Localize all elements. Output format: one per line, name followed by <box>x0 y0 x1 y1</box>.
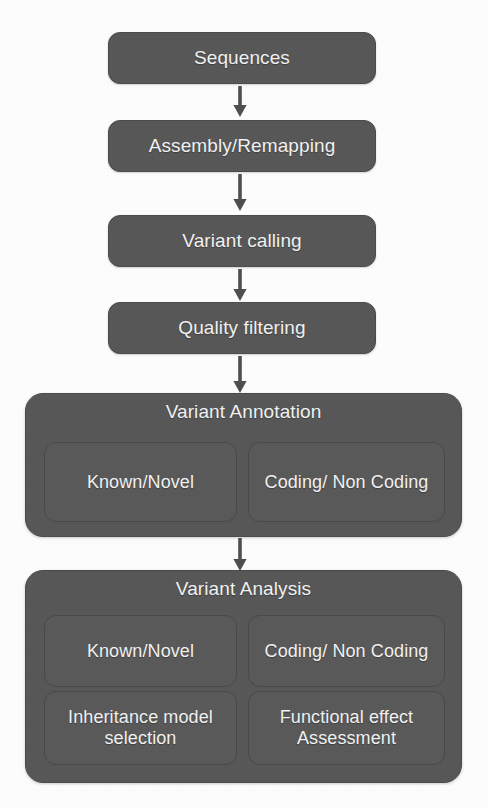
subnode-annotation-coding-noncoding[interactable]: Coding/ Non Coding <box>248 442 445 522</box>
arrow-down-icon-5 <box>233 538 247 572</box>
subnode-analysis-inheritance-model-label: Inheritance model selection <box>49 707 232 748</box>
node-assembly-remapping[interactable]: Assembly/Remapping <box>108 120 376 172</box>
subnode-analysis-known-novel-label: Known/Novel <box>87 641 194 662</box>
subnode-analysis-known-novel[interactable]: Known/Novel <box>44 615 237 687</box>
flowchart-canvas: Sequences Assembly/Remapping Variant cal… <box>0 0 488 808</box>
subnode-analysis-inheritance-model[interactable]: Inheritance model selection <box>44 691 237 765</box>
group-variant-annotation[interactable]: Variant Annotation Known/Novel Coding/ N… <box>25 393 462 537</box>
node-assembly-remapping-label: Assembly/Remapping <box>149 135 336 156</box>
subnode-analysis-coding-noncoding[interactable]: Coding/ Non Coding <box>248 615 445 687</box>
node-quality-filtering[interactable]: Quality filtering <box>108 302 376 354</box>
subnode-analysis-functional-effect-label: Functional effect Assessment <box>253 707 440 748</box>
arrow-down-icon-2 <box>233 174 247 212</box>
node-sequences[interactable]: Sequences <box>108 32 376 84</box>
node-variant-calling-label: Variant calling <box>182 230 301 251</box>
group-variant-analysis-title: Variant Analysis <box>26 578 461 600</box>
group-variant-annotation-title: Variant Annotation <box>26 401 461 423</box>
arrow-down-icon-3 <box>233 269 247 302</box>
group-variant-analysis[interactable]: Variant Analysis Known/Novel Coding/ Non… <box>25 570 462 783</box>
subnode-analysis-coding-noncoding-label: Coding/ Non Coding <box>265 641 429 662</box>
node-sequences-label: Sequences <box>194 47 290 68</box>
node-variant-calling[interactable]: Variant calling <box>108 215 376 267</box>
subnode-annotation-known-novel[interactable]: Known/Novel <box>44 442 237 522</box>
node-quality-filtering-label: Quality filtering <box>178 317 305 338</box>
subnode-analysis-functional-effect[interactable]: Functional effect Assessment <box>248 691 445 765</box>
subnode-annotation-coding-noncoding-label: Coding/ Non Coding <box>265 472 429 493</box>
subnode-annotation-known-novel-label: Known/Novel <box>87 472 194 493</box>
arrow-down-icon-1 <box>233 86 247 118</box>
arrow-down-icon-4 <box>233 356 247 394</box>
